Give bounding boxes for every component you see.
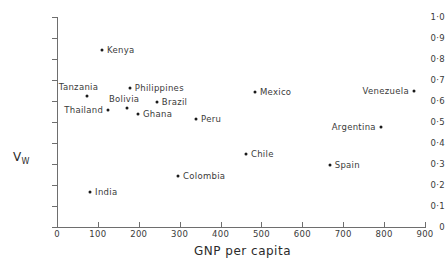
- data-point-marker: [155, 100, 158, 103]
- x-tick-label: 200: [130, 229, 147, 239]
- x-tick-mark: [425, 222, 426, 227]
- y-axis-line: [57, 17, 58, 228]
- y-tick-label: 1·0: [403, 12, 445, 22]
- x-tick-mark: [384, 222, 385, 227]
- data-point-label: Mexico: [260, 87, 291, 97]
- data-point-marker: [328, 164, 331, 167]
- x-tick-label: 600: [294, 229, 311, 239]
- x-tick-label: 100: [89, 229, 106, 239]
- y-tick-mark: [52, 185, 57, 186]
- x-tick-label: 300: [171, 229, 188, 239]
- y-tick-mark: [52, 38, 57, 39]
- data-point-marker: [253, 90, 256, 93]
- y-tick-label: 0·2: [403, 180, 445, 190]
- data-point-label: Venezuela: [363, 86, 409, 96]
- data-point-marker: [244, 152, 247, 155]
- data-point-marker: [136, 112, 139, 115]
- x-axis-title: GNP per capita: [0, 244, 445, 258]
- scatter-plot-figure: 00·10·20·30·40·50·60·70·80·91·0 01002003…: [0, 0, 445, 269]
- y-tick-label: 0·1: [403, 201, 445, 211]
- y-tick-mark: [52, 59, 57, 60]
- x-tick-label: 400: [212, 229, 229, 239]
- data-point-label: Argentina: [332, 122, 376, 132]
- x-tick-mark: [302, 222, 303, 227]
- x-tick-label: 0: [54, 229, 60, 239]
- data-point-marker: [379, 126, 382, 129]
- x-tick-label: 900: [416, 229, 433, 239]
- data-point-label: Philippines: [135, 83, 184, 93]
- x-tick-label: 700: [335, 229, 352, 239]
- x-tick-label: 800: [376, 229, 393, 239]
- x-tick-mark: [343, 222, 344, 227]
- data-point-label: Chile: [251, 149, 274, 159]
- y-tick-label: 0·4: [403, 138, 445, 148]
- x-axis-line: [57, 227, 426, 228]
- data-point-marker: [412, 89, 415, 92]
- data-point-label: India: [95, 187, 117, 197]
- x-tick-mark: [98, 222, 99, 227]
- y-tick-label: 0·8: [403, 54, 445, 64]
- data-point-label: Colombia: [183, 171, 225, 181]
- x-tick-mark: [180, 222, 181, 227]
- data-point-label: Bolivia: [109, 94, 139, 104]
- y-tick-mark: [52, 143, 57, 144]
- x-tick-mark: [221, 222, 222, 227]
- data-point-marker: [128, 87, 131, 90]
- y-tick-mark: [52, 80, 57, 81]
- data-point-label: Spain: [335, 160, 360, 170]
- y-tick-mark: [52, 17, 57, 18]
- x-tick-mark: [139, 222, 140, 227]
- y-tick-mark: [52, 206, 57, 207]
- data-point-marker: [177, 175, 180, 178]
- data-point-marker: [125, 107, 128, 110]
- data-point-marker: [195, 118, 198, 121]
- y-axis-title-base: V: [13, 150, 22, 164]
- data-point-marker: [107, 109, 110, 112]
- data-point-marker: [100, 48, 103, 51]
- data-point-label: Brazil: [162, 97, 188, 107]
- y-tick-mark: [52, 227, 57, 228]
- y-tick-mark: [52, 122, 57, 123]
- y-axis-title: VW: [13, 150, 30, 166]
- x-tick-label: 500: [253, 229, 270, 239]
- data-point-label: Tanzania: [59, 82, 98, 92]
- y-tick-label: 0·9: [403, 33, 445, 43]
- data-point-label: Thailand: [64, 105, 103, 115]
- y-tick-label: 0·5: [403, 117, 445, 127]
- y-tick-mark: [52, 164, 57, 165]
- data-point-marker: [85, 94, 88, 97]
- y-axis-title-subscript: W: [22, 157, 30, 166]
- x-tick-mark: [57, 222, 58, 227]
- data-point-marker: [89, 191, 92, 194]
- y-tick-label: 0·3: [403, 159, 445, 169]
- x-tick-mark: [261, 222, 262, 227]
- data-point-label: Kenya: [107, 45, 135, 55]
- y-tick-label: 0·7: [403, 75, 445, 85]
- y-tick-label: 0·6: [403, 96, 445, 106]
- data-point-label: Peru: [201, 114, 221, 124]
- data-point-label: Ghana: [143, 109, 172, 119]
- y-tick-mark: [52, 101, 57, 102]
